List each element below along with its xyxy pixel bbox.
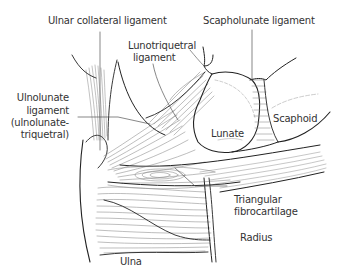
label-triangular-fibrocartilage-line2: fibrocartilage — [234, 206, 298, 218]
radius-articular-hatch — [200, 152, 326, 188]
label-lunotriquetral-ligament-line2: ligament — [133, 52, 176, 64]
label-ulnar-collateral-ligament: Ulnar collateral ligament — [48, 15, 167, 27]
label-scaphoid: Scaphoid — [273, 113, 317, 125]
label-ulnolunate-line4: triquetral) — [5, 129, 69, 141]
ulna-strands — [96, 187, 211, 253]
scapholunate-ligament-hatch — [252, 80, 274, 140]
wrist-ligament-diagram: Ulnar collateral ligament Lunotriquetral… — [0, 0, 349, 278]
label-ulnolunate-line3: (ulnolunate- — [5, 117, 69, 129]
label-ulnolunate-line2: ligament — [5, 105, 69, 117]
label-ulnolunate-line1: Ulnolunate — [5, 92, 69, 104]
label-lunate: Lunate — [211, 128, 244, 140]
label-ulna: Ulna — [120, 256, 142, 268]
ulnolunate-ligament-hatch — [104, 110, 230, 183]
label-scapholunate-ligament: Scapholunate ligament — [203, 15, 315, 27]
ulnar-collateral-ligament-hatch — [86, 65, 107, 140]
lunate-outline — [194, 72, 260, 153]
label-lunotriquetral-ligament-line1: Lunotriquetral — [128, 40, 196, 52]
label-radius: Radius — [240, 232, 272, 244]
label-triangular-fibrocartilage-line1: Triangular — [234, 194, 282, 206]
